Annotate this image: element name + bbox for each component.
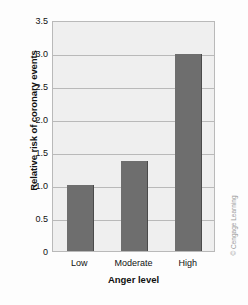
bars-group — [53, 22, 214, 251]
bar-chart-figure: Relative risk of coronary events 00.51.0… — [0, 0, 248, 305]
bar[interactable] — [121, 161, 148, 251]
x-tick-label: Moderate — [114, 258, 152, 268]
x-axis-title: Anger level — [52, 274, 215, 285]
y-axis-tick-labels: 00.51.01.52.02.53.03.5 — [22, 21, 48, 252]
y-tick-label: 0 — [43, 247, 48, 257]
x-tick-label: Low — [71, 258, 88, 268]
y-tick-label: 2.0 — [35, 115, 48, 125]
y-tick-label: 3.5 — [35, 16, 48, 26]
bar[interactable] — [67, 185, 94, 251]
y-tick-label: 3.0 — [35, 49, 48, 59]
y-tick-label: 2.5 — [35, 82, 48, 92]
x-tick-label: High — [179, 258, 198, 268]
y-tick-label: 1.5 — [35, 148, 48, 158]
bar[interactable] — [175, 54, 202, 251]
y-tick-label: 1.0 — [35, 181, 48, 191]
copyright-credit: © Cengage Learning — [230, 181, 237, 271]
x-axis-tick-labels: LowModerateHigh — [52, 258, 215, 272]
y-tick-label: 0.5 — [35, 214, 48, 224]
plot-area — [52, 21, 215, 252]
